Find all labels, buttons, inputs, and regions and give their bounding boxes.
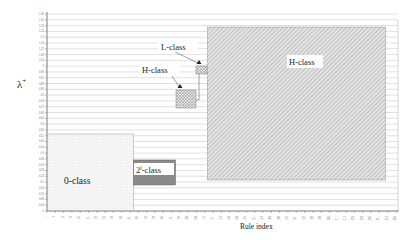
y-tick-labels: 00.040.080.120.160.20.240.280.320.360.40… <box>39 12 47 213</box>
x-tick-label: 43 <box>102 215 106 218</box>
label-l-class: L-class <box>161 42 186 52</box>
x-tick-label: 145 <box>243 215 247 220</box>
y-tick-label: 0.32 <box>39 163 45 167</box>
region-h-class-small <box>176 90 196 108</box>
y-tick-label: 0.92 <box>39 76 45 80</box>
x-tick-label: 61 <box>127 215 131 218</box>
label-h-class-small: H-class <box>142 65 168 75</box>
label-0-class: 0-class <box>64 176 91 186</box>
y-tick-label: 0.24 <box>39 174 45 178</box>
y-tick-label: 0.08 <box>39 197 45 201</box>
x-tick-label: 91 <box>169 215 173 218</box>
x-tick-label: 31 <box>86 215 90 218</box>
y-tick-label: 0.48 <box>39 139 45 143</box>
y-tick-label: 0.4 <box>40 151 44 155</box>
x-tick-label: 133 <box>227 215 231 220</box>
y-tick-label: 0.64 <box>39 116 45 120</box>
y-tick-label: 1 <box>43 64 45 68</box>
y-tick-label: 0.2 <box>40 180 44 184</box>
x-tick-label: 187 <box>302 215 306 220</box>
x-tick-label: 235 <box>368 215 372 220</box>
y-tick-label: 1.2 <box>40 35 44 39</box>
x-tick-label: 193 <box>310 215 314 220</box>
x-tick-label: 181 <box>293 215 297 220</box>
x-tick-labels: 1713192531374349556167737985919710310911… <box>44 211 397 220</box>
x-tick-label: 13 <box>61 215 65 218</box>
x-tick-label: 49 <box>110 215 114 218</box>
label-h-class-large: H-class <box>289 57 315 67</box>
x-tick-label: 211 <box>335 215 339 220</box>
l-class-leader <box>175 52 200 64</box>
x-tick-label: 7 <box>52 215 56 217</box>
x-tick-label: 199 <box>318 215 322 220</box>
x-tick-label: 1 <box>44 215 48 217</box>
x-tick-label: 253 <box>393 215 397 220</box>
x-tick-label: 127 <box>219 215 223 220</box>
x-tick-label: 157 <box>260 215 264 220</box>
region-l-class <box>196 66 207 74</box>
y-tick-label: 0.6 <box>40 122 44 126</box>
x-tick-label: 217 <box>343 215 347 220</box>
y-axis-title: λ+ <box>17 77 26 90</box>
x-tick-label: 109 <box>194 215 198 220</box>
y-tick-label: 0.16 <box>39 186 45 190</box>
y-tick-label: 0.8 <box>40 93 44 97</box>
x-tick-label: 205 <box>327 215 331 220</box>
y-tick-label: 0.96 <box>39 70 45 74</box>
x-tick-label: 121 <box>210 215 214 220</box>
y-tick-label: 1.28 <box>39 24 45 28</box>
x-tick-label: 19 <box>69 215 73 218</box>
y-tick-label: 0 <box>43 209 45 213</box>
y-tick-label: 1.32 <box>39 18 45 22</box>
h-class-marker <box>178 84 183 88</box>
x-tick-label: 175 <box>285 215 289 220</box>
x-tick-label: 37 <box>94 215 98 218</box>
x-tick-label: 223 <box>351 215 355 220</box>
region-0-class <box>48 134 134 211</box>
y-tick-label: 0.56 <box>39 128 45 132</box>
x-tick-label: 73 <box>144 215 148 218</box>
x-tick-label: 229 <box>360 215 364 220</box>
y-tick-label: 1.08 <box>39 53 45 57</box>
region-h-class-large <box>208 27 386 180</box>
y-tick-label: 0.36 <box>39 157 45 161</box>
y-tick-label: 0.84 <box>39 87 45 91</box>
y-tick-label: 0.76 <box>39 99 45 103</box>
x-tick-label: 97 <box>177 215 181 218</box>
y-tick-label: 1.12 <box>39 47 45 51</box>
y-tick-label: 0.44 <box>39 145 45 149</box>
x-tick-label: 103 <box>185 215 189 220</box>
x-tick-label: 67 <box>135 215 139 218</box>
y-tick-label: 0.68 <box>39 111 45 115</box>
y-tick-label: 1.36 <box>39 12 45 16</box>
region-chart: 0-class 2l-class L-class H-class H-class… <box>0 0 413 240</box>
x-tick-label: 85 <box>160 215 164 218</box>
x-axis-title: Rule index <box>240 222 273 231</box>
x-tick-label: 241 <box>376 215 380 220</box>
x-tick-label: 79 <box>152 215 156 218</box>
x-tick-label: 55 <box>119 215 123 218</box>
y-tick-label: 0.88 <box>39 82 45 86</box>
y-tick-label: 0.72 <box>39 105 45 109</box>
y-tick-label: 0.28 <box>39 168 45 172</box>
x-tick-label: 139 <box>235 215 239 220</box>
y-tick-label: 0.12 <box>39 192 45 196</box>
l-class-marker <box>197 60 202 64</box>
x-tick-label: 25 <box>77 215 81 218</box>
y-tick-label: 0.04 <box>39 203 45 207</box>
x-tick-label: 169 <box>277 215 281 220</box>
label-2l-class: 2l-class <box>136 165 161 176</box>
x-tick-label: 247 <box>385 215 389 220</box>
y-tick-label: 1.04 <box>39 58 45 62</box>
x-tick-label: 115 <box>202 215 206 220</box>
y-tick-label: 0.52 <box>39 134 45 138</box>
y-tick-label: 1.24 <box>39 29 45 33</box>
x-tick-label: 163 <box>268 215 272 220</box>
y-tick-label: 1.16 <box>39 41 45 45</box>
x-tick-label: 151 <box>252 215 256 220</box>
